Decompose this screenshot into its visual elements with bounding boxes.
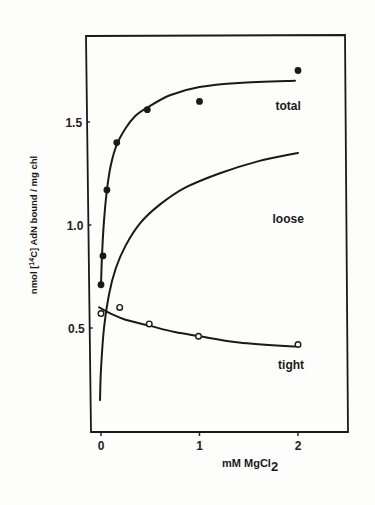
- data-markers: [98, 67, 302, 347]
- x-tick-label: 2: [295, 439, 302, 453]
- series-labels: totalloosetight: [272, 99, 304, 373]
- x-axis-ticks: 012: [98, 432, 302, 453]
- series-label-loose: loose: [272, 212, 304, 226]
- data-point-total: [196, 98, 203, 105]
- x-tick-label: 1: [196, 439, 203, 453]
- chart: 0.51.01.5 012 totalloosetight mM MgCl2 n…: [0, 0, 375, 505]
- fit-curve-tight: [99, 307, 295, 346]
- data-point-tight: [196, 333, 202, 339]
- y-tick-label: 0.5: [68, 322, 85, 336]
- fit-curves: [99, 81, 298, 400]
- data-point-total: [98, 281, 105, 288]
- data-point-tight: [117, 305, 123, 311]
- data-point-total: [144, 106, 151, 113]
- y-tick-label: 1.0: [67, 219, 84, 233]
- plot-frame: [86, 35, 348, 432]
- fit-curve-loose: [100, 153, 298, 400]
- data-point-total: [104, 187, 111, 194]
- x-axis-title: mM MgCl2: [222, 457, 278, 474]
- data-point-total: [100, 253, 107, 260]
- data-point-tight: [146, 321, 152, 327]
- y-axis-title: nmol [14C] AdN bound / mg chl: [28, 156, 39, 294]
- series-label-tight: tight: [278, 358, 304, 372]
- y-tick-label: 1.5: [65, 116, 82, 130]
- data-point-tight: [295, 342, 301, 348]
- data-point-tight: [98, 311, 104, 317]
- data-point-total: [113, 139, 120, 146]
- plot-border: [86, 35, 348, 432]
- data-point-total: [295, 67, 302, 74]
- series-label-total: total: [275, 99, 300, 113]
- x-tick-label: 0: [98, 439, 105, 453]
